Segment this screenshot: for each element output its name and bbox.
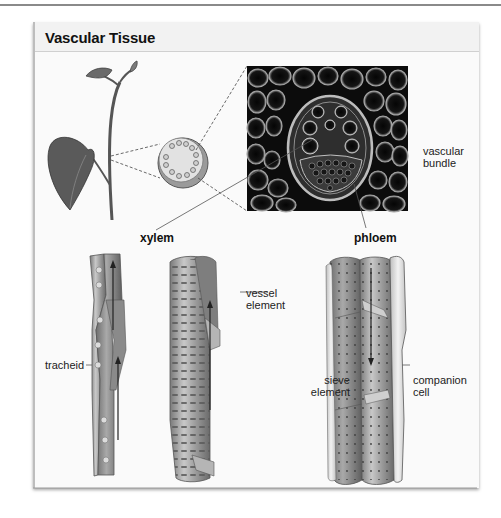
stem-cross-section — [158, 138, 208, 188]
label-companion-cell-line2: cell — [413, 386, 467, 398]
micrograph — [247, 66, 408, 212]
label-vascular-bundle-line2: bundle — [423, 157, 464, 169]
label-vessel-element-line1: vessel — [246, 287, 285, 299]
vessel-element-illustration — [170, 256, 220, 481]
label-vascular-bundle-line1: vascular — [423, 145, 464, 157]
stem-to-section-leaders — [111, 144, 160, 178]
label-vessel-element: vessel element — [246, 287, 285, 311]
tracheid-illustration — [90, 254, 126, 476]
label-sieve-element-line1: sieve — [306, 374, 350, 386]
diagram-artwork — [0, 0, 501, 518]
label-sieve-element: sieve element — [306, 374, 350, 398]
plant-illustration — [48, 61, 137, 220]
label-phloem: phloem — [354, 231, 397, 245]
phloem-illustration — [326, 256, 406, 484]
label-tracheid: tracheid — [45, 359, 84, 371]
label-sieve-element-line2: element — [306, 386, 350, 398]
section-to-micrograph-leaders — [196, 66, 247, 211]
label-companion-cell: companion cell — [413, 374, 467, 398]
label-companion-cell-line1: companion — [413, 374, 467, 386]
label-vascular-bundle: vascular bundle — [423, 145, 464, 169]
label-xylem: xylem — [140, 231, 174, 245]
label-vessel-element-line2: element — [246, 299, 285, 311]
